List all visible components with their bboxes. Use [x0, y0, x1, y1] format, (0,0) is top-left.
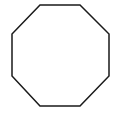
octagon-svg — [0, 0, 118, 116]
octagon-shape — [12, 5, 109, 106]
diagram-canvas: Octagon — [0, 0, 118, 116]
